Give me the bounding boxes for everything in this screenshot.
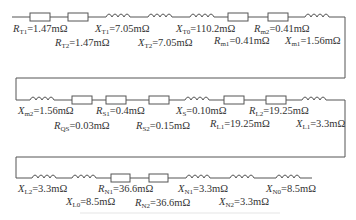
inductor-XT0 [190,14,214,17]
inductor-XT2 [148,14,172,17]
label-XS: XS=0.10mΩ [176,106,227,118]
label-RS2: RS2=0.15mΩ [136,121,190,133]
label-XN0: XN0=8.5mΩ [266,184,316,196]
inductor-Xm2 [30,97,54,100]
label-XL0: XL0=8.5mΩ [66,197,115,209]
inductor-XL2 [32,175,56,178]
label-XN1: XN1=3.3mΩ [178,184,228,196]
label-RN2: RN2=36.6mΩ [135,198,190,210]
label-XL1: XL1=3.3mΩ [296,119,345,131]
inductor-XN0 [276,175,300,178]
resistor-RN2 [149,174,168,182]
label-RQS: RQS=0.03mΩ [54,121,110,133]
inductor-XT1 [106,14,130,17]
resistor-Rm1 [228,13,248,21]
label-XT1: XT1=7.05mΩ [95,24,149,36]
row-3 [16,174,312,182]
resistor-RL1 [224,96,244,104]
resistor-RS1 [106,96,126,104]
inductor-XL0 [72,175,96,178]
label-XT0: XT0=110.2mΩ [176,24,235,36]
label-RL2: RL2=19.25mΩ [249,106,309,118]
inductor-XS [185,97,209,100]
label-Rm1: Rm1=0.41mΩ [214,36,270,48]
label-RT2: RT2=1.47mΩ [55,38,109,50]
resistor-RL2 [266,96,286,104]
resistor-Rm2 [268,13,288,21]
inductor-XL1 [302,97,326,100]
label-XL2: XL2=3.3mΩ [18,184,67,196]
resistor-RT2 [68,13,88,21]
label-Xm2: Xm2=1.56mΩ [18,106,74,118]
inductor-Xm1 [305,14,329,17]
resistor-RQS [72,96,92,104]
label-RL1: RL1=19.25mΩ [210,119,270,131]
label-XT2: XT2=7.05mΩ [138,38,192,50]
label-RN1: RN1=36.6mΩ [98,184,153,196]
label-RT1: RT1=1.47mΩ [13,24,67,36]
resistor-RS2 [149,96,169,104]
inductor-XN1 [186,175,210,178]
resistor-RT1 [30,13,50,21]
label-RS1: RS1=0.4mΩ [96,106,145,118]
figure-caption-faint [80,212,280,214]
label-Xm1: Xm1=1.56mΩ [285,36,341,48]
inductor-XN2 [230,175,254,178]
label-XN2: XN2=3.3mΩ [219,197,269,209]
resistor-RN1 [111,174,130,182]
